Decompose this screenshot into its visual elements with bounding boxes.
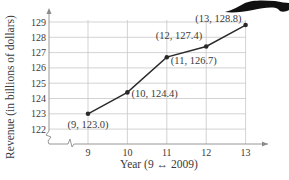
data-point xyxy=(204,44,209,49)
line-chart: 122123124125126127128129910111213(9, 123… xyxy=(0,0,289,180)
point-label: (11, 126.7) xyxy=(171,55,217,67)
y-tick-label: 122 xyxy=(31,124,46,135)
point-label: (12, 127.4) xyxy=(156,30,203,42)
data-point xyxy=(165,55,170,60)
data-point xyxy=(243,23,248,28)
y-tick-label: 126 xyxy=(31,62,46,73)
y-axis-label: Revenue (in billions of dollars) xyxy=(4,7,16,167)
point-label: (9, 123.0) xyxy=(67,119,109,131)
x-axis xyxy=(49,139,268,147)
y-axis-break-icon xyxy=(46,131,51,144)
x-tick-label: 10 xyxy=(122,147,132,158)
point-label: (10, 124.4) xyxy=(131,88,178,100)
x-tick-label: 9 xyxy=(86,147,91,158)
x-tick-label: 13 xyxy=(241,147,251,158)
y-tick-label: 127 xyxy=(31,47,46,58)
x-axis-label: Year (9 ↔ 2009) xyxy=(120,158,198,170)
y-axis-arrow-icon xyxy=(47,8,52,14)
x-axis-arrow-icon xyxy=(262,142,268,147)
y-tick-label: 128 xyxy=(31,32,46,43)
chart-plot: 122123124125126127128129910111213(9, 123… xyxy=(0,0,289,180)
y-tick-label: 124 xyxy=(31,93,46,104)
data-point xyxy=(125,90,130,95)
y-tick-label: 129 xyxy=(31,17,46,28)
y-tick-label: 125 xyxy=(31,78,46,89)
y-tick-label: 123 xyxy=(31,108,46,119)
x-tick-label: 12 xyxy=(201,147,211,158)
x-tick-label: 11 xyxy=(162,147,172,158)
data-point xyxy=(86,112,91,117)
decorative-shoe-icon xyxy=(223,0,289,14)
point-label: (13, 128.8) xyxy=(195,13,242,25)
